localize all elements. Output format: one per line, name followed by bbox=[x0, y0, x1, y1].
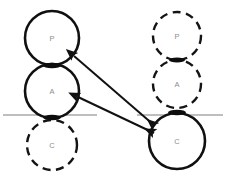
left-p-label: P bbox=[49, 34, 54, 43]
right-p-a-junction bbox=[169, 58, 185, 63]
left-c-label: C bbox=[49, 141, 55, 150]
arrows-group bbox=[74, 56, 155, 133]
right-stack-group: P A C bbox=[149, 12, 205, 169]
left-stack-group: P A C bbox=[25, 11, 79, 170]
node-right-c[interactable]: C bbox=[149, 113, 205, 169]
left-p-a-junction bbox=[43, 63, 61, 69]
node-left-a[interactable]: A bbox=[25, 64, 79, 118]
diagram-canvas: P A C P A bbox=[0, 0, 227, 178]
left-a-c-junction bbox=[43, 115, 61, 121]
left-a-label: A bbox=[49, 87, 54, 96]
right-a-label: A bbox=[174, 80, 179, 89]
diagram-svg: P A C P A bbox=[0, 0, 227, 178]
node-right-p[interactable]: P bbox=[153, 12, 201, 60]
right-c-label: C bbox=[174, 137, 180, 146]
right-a-c-junction bbox=[168, 110, 186, 116]
node-right-a[interactable]: A bbox=[153, 60, 201, 108]
node-left-p[interactable]: P bbox=[25, 11, 79, 65]
node-left-c[interactable]: C bbox=[27, 120, 77, 170]
right-p-label: P bbox=[174, 32, 179, 41]
